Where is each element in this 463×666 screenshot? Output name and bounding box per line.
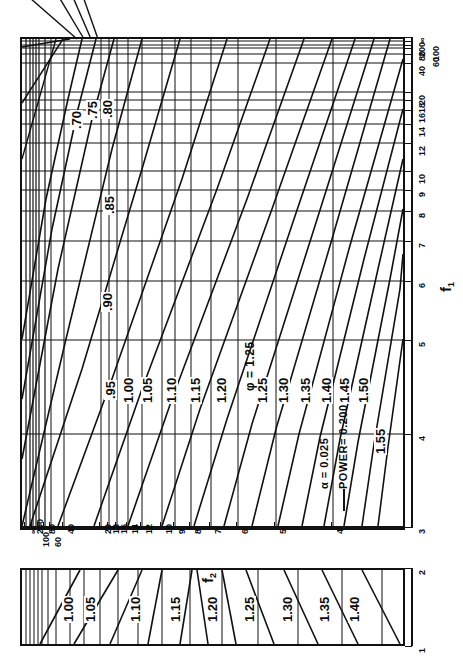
- axis-tick-label: 10: [418, 174, 427, 184]
- f2-tick-mark: [140, 522, 141, 530]
- phi-curve-label: .75: [86, 100, 99, 120]
- phi-curve: [344, 209, 403, 526]
- axis-tick-label: 9: [178, 529, 187, 534]
- phi-curve-label: 1.35: [318, 596, 331, 623]
- axis-tick-label: 12: [418, 146, 427, 156]
- axis-tick-label: 40: [418, 66, 427, 76]
- f2-tick-mark: [189, 522, 190, 530]
- f2-tick-mark: [49, 522, 50, 530]
- axis-tick-label: 200: [418, 42, 427, 57]
- phi-curve: [22, 0, 77, 39]
- axis-tick-label: 5: [418, 342, 427, 347]
- f1-tick-mark: [405, 241, 412, 242]
- f2-tick-mark: [43, 522, 44, 530]
- f2-tick-mark: [115, 522, 116, 530]
- phi-curve-label: 1.10: [165, 377, 178, 404]
- phi-curve: [22, 39, 70, 47]
- f1-tick-mark: [405, 124, 412, 125]
- phi-curve-label: .80: [101, 99, 114, 119]
- axis-tick-label: 6: [418, 283, 427, 288]
- axis-tick-label: 7: [418, 243, 427, 248]
- alpha-annotation: α = 0.025: [318, 438, 330, 489]
- phi-curve-label: 1.05: [84, 596, 97, 623]
- power-leader-line: [343, 489, 345, 511]
- f1-tick-mark: [405, 527, 412, 528]
- phi-curve-label: 1.40: [320, 377, 333, 404]
- axis-tick-label: 14: [131, 524, 140, 534]
- phi-curve-label: .85: [103, 195, 116, 215]
- axis-tick-label: 4: [418, 436, 427, 441]
- phi-annotation: φ = 1.25: [243, 341, 257, 391]
- phi-curve: [148, 570, 162, 644]
- phi-curve-label: 1.20: [215, 377, 228, 404]
- phi-curve-label: 1.50: [357, 377, 370, 404]
- axis-tick-label: 8: [194, 529, 203, 534]
- f2-tick-mark: [331, 522, 332, 530]
- axis-tick-label: 2: [418, 570, 427, 575]
- phi-curve: [222, 570, 236, 644]
- f2-tick-mark: [173, 522, 174, 530]
- f1-tick-mark: [405, 143, 412, 144]
- f1-tick-mark: [405, 54, 412, 55]
- axis-tick-label: 7: [214, 529, 223, 534]
- phi-curve-label: .90: [101, 292, 114, 312]
- f1-tick-mark: [405, 434, 412, 435]
- phi-curve-label: 1.30: [277, 377, 290, 404]
- phi-curve: [224, 39, 374, 526]
- phi-curve-label: .95: [104, 380, 117, 400]
- phi-curve: [194, 39, 355, 526]
- f2-tick-mark: [209, 522, 210, 530]
- f1-tick-mark: [405, 45, 412, 46]
- f2-tick-mark: [274, 522, 275, 530]
- f2-tick-mark: [24, 522, 25, 530]
- axis-tick-label: 5: [279, 529, 288, 534]
- f1-axis-label: f1: [438, 282, 456, 292]
- axis-tick-label: ∞: [418, 38, 427, 44]
- small-tick-mark: [405, 646, 412, 647]
- f2-tick-mark: [31, 522, 32, 530]
- f1-tick-mark: [405, 41, 412, 42]
- axis-tick-label: 20: [418, 95, 427, 105]
- f1-tick-mark: [405, 92, 412, 93]
- f1-tick-mark: [405, 48, 412, 49]
- f2-tick-mark: [37, 522, 38, 530]
- axis-tick-label: 3: [418, 529, 427, 534]
- phi-curve-label: 1.15: [169, 596, 182, 623]
- axis-tick-label: 60: [54, 537, 63, 547]
- axis-tick-label: 4: [336, 529, 345, 534]
- axis-tick-label: 16: [120, 524, 129, 534]
- f2-tick-mark: [236, 522, 237, 530]
- phi-curve: [22, 0, 98, 39]
- phi-curve-label: 1.45: [338, 377, 351, 404]
- phi-curve: [362, 570, 400, 644]
- f1-tick-mark: [405, 211, 412, 212]
- axis-tick-label: 14: [418, 127, 427, 137]
- phi-curve-label: 1.30: [281, 596, 294, 623]
- axis-tick-label: 6: [241, 529, 250, 534]
- phi-curve: [162, 39, 332, 526]
- phi-curve-label: 1.55: [374, 428, 387, 455]
- phi-curve-label: 1.05: [141, 377, 154, 404]
- f2-tick-mark: [99, 522, 100, 530]
- f1-tick-mark: [405, 100, 412, 101]
- axis-tick-label: 100: [432, 46, 441, 61]
- phi-curve-label: 1.35: [299, 377, 312, 404]
- phi-curve-label: 1.25: [256, 377, 269, 404]
- f1-tick-mark: [405, 190, 412, 191]
- phi-curve-label: .70: [70, 110, 83, 130]
- axis-tick-label: 100: [42, 532, 51, 547]
- phi-curve: [22, 39, 63, 103]
- f2-axis-label: f2: [200, 573, 218, 583]
- axis-tick-label: 9: [418, 192, 427, 197]
- f2-tick-mark: [107, 522, 108, 530]
- phi-curve: [22, 39, 82, 339]
- small-tick-mark: [405, 568, 412, 569]
- phi-curve-label: 1.40: [348, 596, 361, 623]
- f1-tick-mark: [405, 340, 412, 341]
- phi-curve: [22, 0, 84, 39]
- phi-curve-label: 1.20: [206, 596, 219, 623]
- f2-tick-mark: [126, 522, 127, 530]
- phi-curve-label: 1.00: [122, 377, 135, 404]
- power-annotation: POWER= 0.200: [337, 404, 349, 489]
- axis-tick-label: 40: [67, 524, 76, 534]
